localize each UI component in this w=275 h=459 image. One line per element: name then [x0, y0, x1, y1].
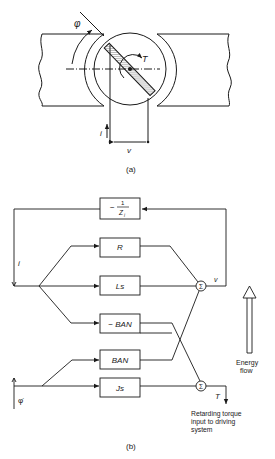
signal-phi-dot: φ̇ — [18, 396, 24, 405]
sum-symbol-voltage: Σ — [199, 283, 203, 290]
block-js-label: Js — [115, 384, 124, 393]
energy-flow-arrow — [243, 286, 256, 353]
figure-b-block-diagram — [14, 198, 226, 409]
pivot-dot — [128, 67, 132, 71]
terminal-right — [147, 141, 150, 144]
block-neg-ban-label: − BAN — [108, 320, 132, 329]
block-r-label: R — [117, 243, 123, 252]
signal-current: i — [18, 259, 20, 268]
right-pole-piece — [157, 34, 229, 106]
terminal-left — [109, 141, 112, 144]
output-note-line2: input to driving — [191, 418, 235, 426]
caption-a: (a) — [126, 165, 136, 174]
label-voltage-a: v — [127, 146, 132, 155]
block-ban-label: BAN — [112, 356, 129, 365]
sum-symbol-torque: Σ — [199, 383, 203, 390]
feedback-numerator: 1 — [121, 200, 125, 206]
feedback-denominator-sub: i — [124, 213, 126, 218]
diagram-canvas: φ T i v (a) — [0, 0, 275, 459]
output-note-line3: system — [191, 426, 213, 434]
left-pole-piece — [42, 34, 104, 106]
output-note-line1: Retarding torque — [191, 410, 242, 418]
feedback-sign: − — [110, 203, 115, 212]
label-torque-a: T — [142, 54, 149, 64]
energy-flow-line1: Energy — [236, 359, 259, 367]
block-ls-label: Ls — [116, 282, 124, 291]
signal-voltage: v — [214, 276, 218, 283]
label-current-a: i — [100, 129, 102, 138]
label-phi: φ — [74, 18, 81, 29]
caption-b: (b) — [126, 442, 136, 451]
signal-torque: T — [215, 392, 221, 401]
energy-flow-line2: flow — [240, 367, 253, 374]
